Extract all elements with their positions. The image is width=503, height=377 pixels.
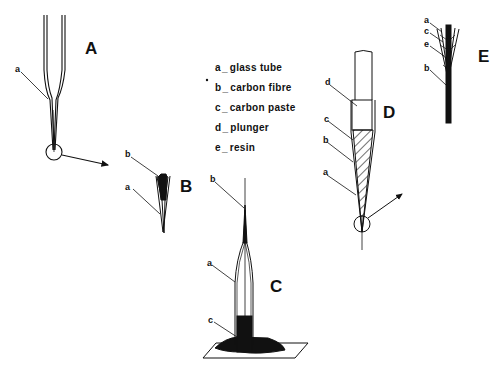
part-label-b-panel-d: b <box>323 136 329 145</box>
legend-item-resin: e_resin <box>215 142 296 162</box>
panel-label-b: B <box>180 178 192 195</box>
legend: a_glass tube b_carbon fibre c_carbon pas… <box>215 62 296 162</box>
diagram-drawing <box>0 0 503 377</box>
part-label-a-panel-a: a <box>15 65 20 74</box>
part-label-b-panel-e: b <box>424 64 430 73</box>
part-label-d-panel-d: d <box>325 78 331 87</box>
legend-item-carbon-fibre: b_carbon fibre <box>215 82 296 102</box>
part-label-e-panel-e: e <box>424 40 429 49</box>
part-label-a-panel-b: a <box>125 183 130 192</box>
electrode-diagram: A B C D E a b a b a c d c b a a c e b a_… <box>0 0 503 377</box>
stray-dot <box>206 79 208 81</box>
panel-label-c: C <box>270 278 282 295</box>
part-label-c-panel-d: c <box>324 115 329 124</box>
panel-d-syringe <box>327 51 402 251</box>
part-label-c-panel-c: c <box>208 316 213 325</box>
panel-a-capillary <box>21 15 108 165</box>
legend-item-plunger: d_plunger <box>215 122 296 142</box>
part-label-b-panel-c: b <box>210 175 216 184</box>
panel-label-a: A <box>85 40 97 57</box>
panel-label-d: D <box>383 104 395 121</box>
part-label-a-panel-d: a <box>323 168 328 177</box>
part-label-c-panel-e: c <box>424 27 429 36</box>
panel-e-electrode <box>430 23 459 123</box>
part-label-b-panel-b: b <box>125 150 131 159</box>
panel-c-loading <box>203 178 308 358</box>
legend-item-glass-tube: a_glass tube <box>215 62 296 82</box>
legend-item-carbon-paste: c_carbon paste <box>215 102 296 122</box>
panel-label-e: E <box>478 48 489 65</box>
part-label-a-panel-c: a <box>207 259 212 268</box>
part-label-a-panel-e: a <box>424 16 429 25</box>
panel-b-tip <box>131 157 170 233</box>
